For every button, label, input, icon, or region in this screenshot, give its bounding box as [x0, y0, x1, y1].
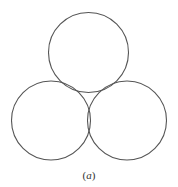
bottom-left-circle [12, 81, 91, 160]
caption-close-paren: ) [92, 169, 96, 181]
figure-caption: (a) [0, 169, 178, 181]
three-circles-diagram [0, 0, 178, 187]
bottom-right-circle [88, 81, 167, 160]
top-circle [49, 13, 129, 93]
